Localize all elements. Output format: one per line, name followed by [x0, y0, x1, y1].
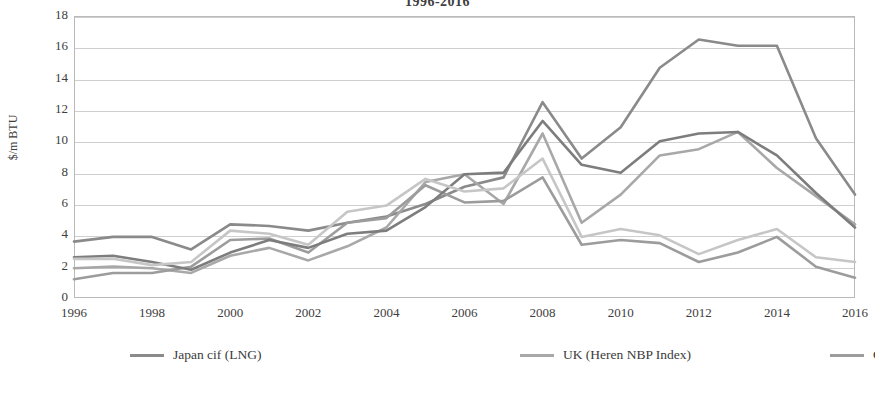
- y-tick-label: 16: [34, 38, 68, 54]
- x-tick-label: 1998: [122, 305, 182, 321]
- legend-label: UK (Heren NBP Index): [563, 347, 691, 363]
- legend-item[interactable]: UK (Heren NBP Index): [520, 345, 830, 365]
- x-tick-label: 2012: [669, 305, 729, 321]
- x-axis-ticks: 1996199820002002200420062008201020122014…: [74, 305, 855, 327]
- plot-area: [74, 16, 855, 298]
- legend-swatch-icon: [830, 354, 864, 357]
- y-axis-label: $/m BTU: [6, 95, 21, 181]
- y-tick-label: 4: [34, 226, 68, 242]
- x-tick-label: 1996: [44, 305, 104, 321]
- y-tick-label: 18: [34, 7, 68, 23]
- y-axis-ticks: 181614121086420: [30, 16, 68, 298]
- x-tick-label: 2008: [513, 305, 573, 321]
- x-tick-label: 2016: [825, 305, 875, 321]
- y-tick-label: 10: [34, 132, 68, 148]
- y-tick-label: 8: [34, 164, 68, 180]
- x-tick-label: 2004: [356, 305, 416, 321]
- y-tick-label: 14: [34, 70, 68, 86]
- chart-title: 1996-2016: [0, 0, 875, 10]
- series-line: [74, 40, 855, 250]
- x-tick-label: 2002: [278, 305, 338, 321]
- y-tick-label: 2: [34, 258, 68, 274]
- chart-legend: Japan cif (LNG)UK (Heren NBP Index)Canad…: [130, 345, 830, 365]
- y-tick-label: 6: [34, 195, 68, 211]
- series-line: [74, 121, 855, 270]
- x-tick-label: 2006: [435, 305, 495, 321]
- x-tick-label: 2000: [200, 305, 260, 321]
- y-tick-label: 0: [34, 289, 68, 305]
- x-tick-label: 2010: [591, 305, 651, 321]
- legend-swatch-icon: [130, 354, 164, 357]
- x-tick-label: 2014: [747, 305, 807, 321]
- y-tick-label: 12: [34, 101, 68, 117]
- legend-swatch-icon: [520, 354, 554, 357]
- legend-item[interactable]: Canada (Alberta): [830, 345, 875, 365]
- legend-item[interactable]: Japan cif (LNG): [130, 345, 520, 365]
- legend-label: Japan cif (LNG): [173, 347, 261, 363]
- series-lines: [74, 16, 855, 298]
